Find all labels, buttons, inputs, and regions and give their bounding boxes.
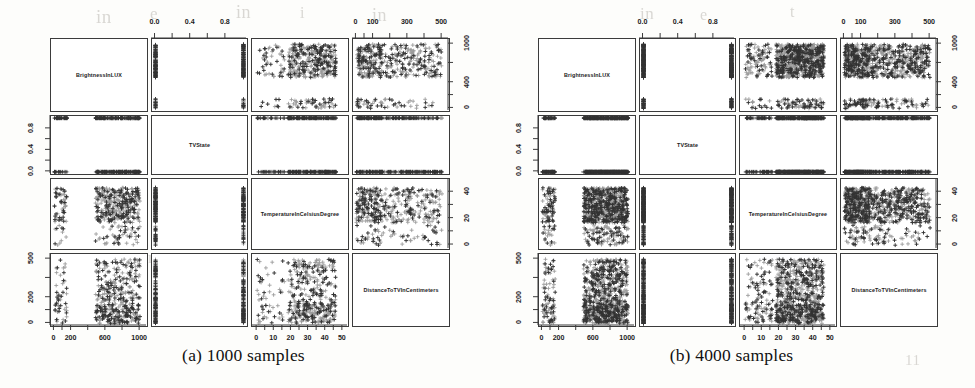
panel-scatter-r1-c3 (251, 38, 349, 112)
axis-tick-label: 600 (99, 334, 111, 342)
axis-tick-label: 200 (65, 334, 77, 342)
axis-right-temperature (936, 178, 944, 248)
panel-diagonal-temperatureincelsiusdegree: TemperatureInCelsiusDegree (251, 178, 349, 250)
axis-tick-label: 400 (463, 76, 471, 88)
panel-scatter-r3-c4 (352, 178, 450, 250)
axis-top-tvstate (151, 30, 246, 38)
axis-bottom-temperature (251, 325, 347, 333)
panel-scatter-r2-c1 (538, 115, 636, 175)
axis-tick-label: 300 (401, 18, 413, 26)
panel-scatter-r1-c3 (739, 38, 837, 112)
axis-top-tvstate (639, 30, 734, 38)
panel-scatter-r3-c2 (151, 178, 248, 250)
scatter-points (841, 116, 937, 174)
scatter-points (353, 179, 449, 249)
panel-variable-label: BrightnessInLUX (564, 72, 610, 78)
axis-right-brightness (448, 38, 456, 110)
axis-tick-label: 1000 (619, 334, 635, 342)
axis-tick-label: 0.8 (515, 123, 523, 133)
caption-b: (b) 4000 samples (488, 345, 975, 366)
scatter-points (539, 116, 635, 174)
axis-tick-label: 1000 (131, 334, 147, 342)
axis-tick-label: 300 (889, 18, 901, 26)
axis-tick-label: 0.0 (638, 18, 648, 26)
axis-tick-label: 200 (553, 334, 565, 342)
scatter-points (640, 254, 735, 326)
axis-left-distance (42, 253, 50, 325)
axis-tick-label: 100 (367, 18, 379, 26)
axis-tick-label: 200 (27, 291, 35, 303)
axis-tick-label: 0.4 (27, 144, 35, 154)
axis-tick-label: 30 (304, 334, 312, 342)
scatter-points (640, 39, 735, 111)
axis-left-distance (530, 253, 538, 325)
caption-a: (a) 1000 samples (0, 345, 487, 366)
axis-tick-label: 0.8 (708, 18, 718, 26)
panel-diagonal-tvstate: TVState (639, 115, 736, 175)
axis-tick-label: 10 (757, 334, 765, 342)
axis-tick-label: 1000 (951, 35, 959, 51)
panel-scatter-r4-c3 (251, 253, 349, 327)
axis-tick-label: 40 (321, 334, 329, 342)
scatter-points (539, 179, 635, 249)
axis-tick-label: 0.8 (220, 18, 230, 26)
axis-tick-label: 1000 (463, 35, 471, 51)
axis-tick-label: 500 (435, 18, 447, 26)
axis-tick-label: 0.0 (27, 166, 35, 176)
panel-scatter-r2-c1 (50, 115, 148, 175)
panel-variable-label: TVState (189, 142, 210, 148)
axis-tick-label: 0 (254, 334, 258, 342)
axis-tick-label: 10 (269, 334, 277, 342)
axis-tick-label: 600 (587, 334, 599, 342)
panel-variable-label: DistanceToTVInCentimeters (363, 287, 438, 293)
matrix-b-wrap: BrightnessInLUX TVState TemperatureInCel… (488, 0, 975, 340)
scatter-points (353, 39, 449, 111)
axis-left-tvstate (42, 115, 50, 173)
subfigure-a: BrightnessInLUX TVState TemperatureInCel… (0, 0, 487, 388)
scatter-points (152, 39, 247, 111)
panel-diagonal-temperatureincelsiusdegree: TemperatureInCelsiusDegree (739, 178, 837, 250)
axis-tick-label: 0 (515, 320, 523, 324)
scatter-points (51, 116, 147, 174)
scatter-points (252, 254, 348, 326)
axis-tick-label: 50 (338, 334, 346, 342)
panel-scatter-r1-c2 (639, 38, 736, 112)
axis-tick-label: 20 (463, 214, 471, 222)
panel-scatter-r1-c4 (352, 38, 450, 112)
panel-scatter-r1-c4 (840, 38, 938, 112)
axis-top-distance (352, 30, 448, 38)
axis-tick-label: 0 (951, 105, 959, 109)
axis-tick-label: 0.8 (27, 123, 35, 133)
panel-variable-label: TVState (677, 142, 698, 148)
axis-tick-label: 0 (353, 18, 357, 26)
axis-bottom-brightness (50, 325, 146, 333)
scatter-points (841, 179, 937, 249)
panel-variable-label: BrightnessInLUX (76, 72, 122, 78)
panel-scatter-r3-c1 (50, 178, 148, 250)
scatter-points (152, 254, 247, 326)
panel-scatter-r1-c2 (151, 38, 248, 112)
axis-tick-label: 20 (774, 334, 782, 342)
axis-tick-label: 0.0 (150, 18, 160, 26)
panel-scatter-r4-c2 (639, 253, 736, 327)
panel-scatter-r2-c3 (251, 115, 349, 175)
scatter-points (51, 254, 147, 326)
axis-tick-label: 500 (923, 18, 935, 26)
panel-variable-label: TemperatureInCelsiusDegree (749, 211, 827, 217)
axis-bottom-brightness (538, 325, 634, 333)
scatter-points (252, 39, 348, 111)
scatter-points (740, 254, 836, 326)
axis-tick-label: 30 (792, 334, 800, 342)
axis-tick-label: 500 (515, 252, 523, 264)
scatter-points (841, 39, 937, 111)
panel-scatter-r3-c4 (840, 178, 938, 250)
axis-tick-label: 40 (463, 187, 471, 195)
matrix-a-wrap: BrightnessInLUX TVState TemperatureInCel… (0, 0, 487, 340)
panel-diagonal-brightnessinlux: BrightnessInLUX (538, 38, 636, 112)
scatter-points (252, 116, 348, 174)
axis-tick-label: 20 (951, 214, 959, 222)
scatter-points (740, 39, 836, 111)
axis-right-temperature (448, 178, 456, 248)
axis-tick-label: 500 (27, 252, 35, 264)
scatter-points (152, 179, 247, 249)
